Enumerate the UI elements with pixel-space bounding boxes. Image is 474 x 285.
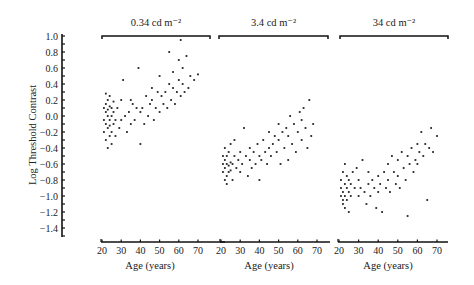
data-point [397, 175, 399, 177]
data-point [161, 95, 163, 97]
data-point [126, 131, 128, 133]
data-point [180, 39, 182, 41]
data-point [134, 119, 136, 121]
data-point [107, 127, 109, 129]
data-point [422, 155, 424, 157]
data-point [389, 191, 391, 193]
y-tick-label: −1.0 [40, 191, 58, 202]
data-point [369, 195, 371, 197]
data-points [222, 99, 314, 185]
data-point [268, 131, 270, 133]
y-tick-label: −0.8 [40, 175, 58, 186]
data-point [381, 211, 383, 213]
data-point [113, 123, 115, 125]
data-point [340, 195, 342, 197]
data-point [113, 111, 115, 113]
y-tick-label: −1.2 [40, 207, 58, 218]
data-point [379, 183, 381, 185]
x-tick-label: 40 [373, 245, 383, 256]
data-point [109, 135, 111, 137]
data-point [178, 59, 180, 61]
data-point [383, 171, 385, 173]
data-point [373, 187, 375, 189]
x-axis-label: Age (years) [363, 260, 413, 272]
data-point [111, 131, 113, 133]
x-tick-label: 60 [174, 245, 184, 256]
data-point [109, 125, 111, 127]
y-tick-label: −0.6 [40, 159, 58, 170]
data-point [176, 91, 178, 93]
data-point [141, 107, 143, 109]
data-point [436, 135, 438, 137]
data-point [132, 103, 134, 105]
data-point [287, 135, 289, 137]
scatter-chart: 1.00.80.60.40.20.0−0.2−0.4−0.6−0.8−1.0−1… [0, 0, 474, 285]
data-point [109, 119, 111, 121]
data-point [411, 147, 413, 149]
data-point [342, 203, 344, 205]
y-axis: 1.00.80.60.40.20.0−0.2−0.4−0.6−0.8−1.0−1… [40, 31, 65, 238]
data-point [197, 74, 199, 76]
data-point [432, 151, 434, 153]
data-point [344, 163, 346, 165]
data-point [111, 143, 113, 145]
data-point [118, 127, 120, 129]
data-point [189, 75, 191, 77]
data-point [377, 175, 379, 177]
data-point [172, 71, 174, 73]
data-point [228, 165, 230, 167]
x-tick-label: 50 [274, 245, 284, 256]
data-point [352, 171, 354, 173]
data-point [312, 123, 314, 125]
data-point [342, 191, 344, 193]
data-point [272, 143, 274, 145]
data-point [342, 199, 344, 201]
data-point [159, 111, 161, 113]
data-point [251, 167, 253, 169]
data-point [255, 163, 257, 165]
data-point [301, 119, 303, 121]
x-tick-label: 30 [235, 245, 245, 256]
data-point [346, 187, 348, 189]
data-point [147, 115, 149, 117]
data-point [105, 111, 107, 113]
panel-2: 3.4 cd m⁻²203040506070Age (years) [216, 17, 330, 272]
panel-title: 0.34 cd m⁻² [131, 17, 181, 28]
data-point [344, 183, 346, 185]
y-tick-label: −1.4 [40, 223, 58, 234]
data-point [151, 99, 153, 101]
data-point [237, 159, 239, 161]
data-point [164, 91, 166, 93]
data-point [368, 183, 370, 185]
data-point [291, 143, 293, 145]
data-point [182, 67, 184, 69]
data-point [103, 119, 105, 121]
data-point [362, 159, 364, 161]
data-point [371, 179, 373, 181]
data-point [232, 163, 234, 165]
data-point [239, 151, 241, 153]
data-point [235, 167, 237, 169]
data-point [222, 163, 224, 165]
data-point [105, 123, 107, 125]
panel-bracket [219, 36, 328, 39]
data-point [276, 151, 278, 153]
data-point [364, 191, 366, 193]
data-point [224, 167, 226, 169]
data-point [222, 155, 224, 157]
data-point [157, 91, 159, 93]
data-point [111, 107, 113, 109]
data-point [270, 155, 272, 157]
data-point [182, 83, 184, 85]
data-point [116, 107, 118, 109]
y-tick-label: 0.0 [46, 111, 59, 122]
data-point [356, 167, 358, 169]
data-point [360, 187, 362, 189]
data-point [289, 115, 291, 117]
x-tick-label: 20 [216, 245, 226, 256]
x-tick-label: 70 [312, 245, 322, 256]
data-point [278, 139, 280, 141]
data-point [151, 87, 153, 89]
y-tick-label: 0.2 [46, 95, 59, 106]
data-point [257, 143, 259, 145]
